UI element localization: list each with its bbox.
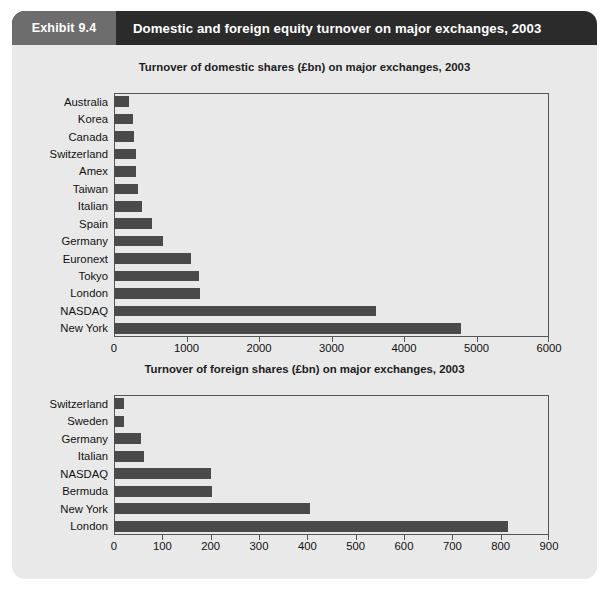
y-axis-label: Taiwan [16, 180, 114, 197]
y-axis-label: London [16, 285, 114, 302]
x-axis-tick-label: 6000 [536, 342, 561, 354]
x-axis-tick-label: 100 [153, 540, 172, 552]
chart-domestic-shares: Turnover of domestic shares (£bn) on maj… [12, 59, 597, 359]
y-axis-label: Switzerland [16, 145, 114, 162]
x-axis-tick-label: 300 [250, 540, 269, 552]
y-axis-label: NASDAQ [16, 302, 114, 319]
y-axis-label: Australia [16, 93, 114, 110]
y-axis-label: Sweden [16, 413, 114, 431]
exhibit-title: Domestic and foreign equity turnover on … [116, 11, 541, 45]
bar [114, 253, 191, 263]
bar [114, 218, 152, 228]
bar [114, 166, 136, 176]
bar [114, 288, 200, 298]
bar [114, 486, 212, 497]
bar [114, 201, 142, 211]
exhibit-card: Exhibit 9.4 Domestic and foreign equity … [12, 11, 597, 579]
x-axis-tick-label: 800 [491, 540, 510, 552]
y-axis-label: New York [16, 500, 114, 518]
bar [114, 149, 136, 159]
x-axis-tick-label: 4000 [391, 342, 416, 354]
y-axis-label: Amex [16, 163, 114, 180]
bar [114, 306, 376, 316]
x-axis-tick-label: 400 [298, 540, 317, 552]
y-axis-label: Germany [16, 430, 114, 448]
x-axis-tick-label: 600 [395, 540, 414, 552]
y-axis-label: NASDAQ [16, 465, 114, 483]
y-axis-labels-foreign: SwitzerlandSwedenGermanyItalianNASDAQBer… [16, 395, 114, 535]
bar [114, 114, 133, 124]
x-axis-tick-label: 0 [111, 540, 117, 552]
x-axis-foreign: 0100200300400500600700800900 [114, 535, 549, 555]
bar [114, 503, 310, 514]
bar [114, 236, 163, 246]
chart-foreign-title: Turnover of foreign shares (£bn) on majo… [12, 361, 597, 377]
bar [114, 416, 124, 427]
y-axis-labels-domestic: AustraliaKoreaCanadaSwitzerlandAmexTaiwa… [16, 93, 114, 337]
bar [114, 131, 134, 141]
x-axis-tick-label: 2000 [246, 342, 271, 354]
y-axis-label: Canada [16, 128, 114, 145]
bar [114, 323, 461, 333]
exhibit-number-tag: Exhibit 9.4 [12, 11, 116, 45]
bars-foreign [114, 395, 549, 535]
x-axis-tick-label: 0 [111, 342, 117, 354]
bar [114, 451, 144, 462]
x-axis-tick-label: 700 [443, 540, 462, 552]
y-axis-label: Euronext [16, 250, 114, 267]
y-axis-label: Italian [16, 448, 114, 466]
y-axis-label: Tokyo [16, 267, 114, 284]
bar [114, 184, 138, 194]
x-axis-tick-label: 500 [346, 540, 365, 552]
exhibit-header: Exhibit 9.4 Domestic and foreign equity … [12, 11, 597, 45]
bar [114, 433, 141, 444]
y-axis-label: Bermuda [16, 483, 114, 501]
x-axis-tick-label: 200 [201, 540, 220, 552]
y-axis-label: London [16, 518, 114, 536]
x-axis-tick-label: 5000 [464, 342, 489, 354]
bar [114, 521, 508, 532]
chart-foreign-shares: Turnover of foreign shares (£bn) on majo… [12, 361, 597, 573]
x-axis-tick-label: 3000 [319, 342, 344, 354]
y-axis-label: Italian [16, 198, 114, 215]
y-axis-label: Spain [16, 215, 114, 232]
y-axis-label: Switzerland [16, 395, 114, 413]
bar [114, 271, 199, 281]
bar [114, 468, 211, 479]
bars-domestic [114, 93, 549, 337]
bar [114, 398, 124, 409]
x-axis-tick-label: 900 [540, 540, 559, 552]
y-axis-label: New York [16, 320, 114, 337]
exhibit-page: Exhibit 9.4 Domestic and foreign equity … [0, 0, 609, 591]
y-axis-label: Germany [16, 232, 114, 249]
x-axis-tick-label: 1000 [174, 342, 199, 354]
bar [114, 96, 129, 106]
chart-domestic-title: Turnover of domestic shares (£bn) on maj… [12, 59, 597, 75]
y-axis-label: Korea [16, 110, 114, 127]
x-axis-domestic: 0100020003000400050006000 [114, 337, 549, 357]
